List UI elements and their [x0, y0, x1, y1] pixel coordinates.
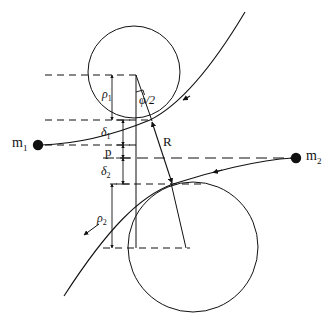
label-rho-2: ρ2 — [97, 212, 107, 227]
trajectory-mass2-direction-arrow — [213, 170, 222, 173]
label-delta-2-subscript: 2 — [107, 171, 111, 180]
label-rho-1: ρ1 — [102, 88, 112, 103]
label-mass-2: m2 — [306, 149, 321, 166]
scattering-diagram-figure: m1 m2 ρ1 ρ2 δ1 δ2 p R φ/2 — [0, 0, 334, 320]
label-delta-1-subscript: 1 — [107, 132, 111, 141]
label-mass-1-symbol: m — [12, 135, 23, 150]
label-mass-2-subscript: 2 — [317, 156, 322, 166]
label-half-deflection-angle: φ/2 — [139, 94, 155, 106]
circle-of-curvature-upper — [88, 26, 180, 118]
trajectory-mass1-direction-arrow — [183, 96, 190, 100]
mass2-dot — [291, 153, 301, 163]
diagram-canvas — [0, 0, 334, 320]
label-mass-2-symbol: m — [306, 148, 317, 163]
label-mass-1: m1 — [12, 136, 27, 153]
label-impact-parameter: p — [105, 145, 112, 158]
circle-of-curvature-lower — [128, 182, 258, 312]
mass1-dot — [33, 140, 43, 150]
label-rho-1-subscript: 1 — [108, 94, 112, 103]
separation-arrow-R — [152, 122, 172, 183]
label-mass-1-subscript: 1 — [23, 143, 28, 153]
radius-line-lower-circle — [171, 183, 186, 248]
label-separation-R: R — [163, 135, 172, 148]
label-delta-1: δ1 — [101, 126, 111, 141]
trajectory-mass2 — [173, 158, 293, 184]
trajectory-mass1 — [41, 120, 150, 145]
trajectory-mass2-outgoing — [64, 184, 173, 296]
label-rho-2-subscript: 2 — [103, 218, 107, 227]
label-delta-2: δ2 — [101, 165, 111, 180]
trajectory-mass1-outgoing — [150, 12, 245, 120]
